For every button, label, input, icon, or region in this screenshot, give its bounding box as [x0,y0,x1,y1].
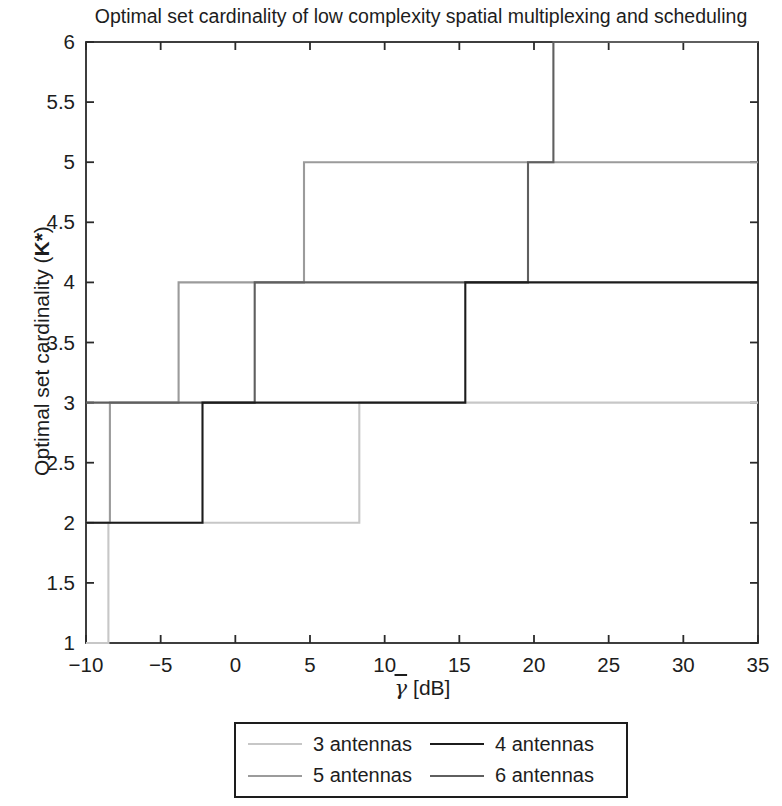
legend-label: 6 antennas [495,764,594,787]
legend-label: 5 antennas [313,764,412,787]
chart-figure: Optimal set cardinality of low complexit… [0,0,782,806]
x-tick-label: −10 [69,653,104,676]
x-tick-label: 10 [373,653,396,676]
x-tick-label: −5 [149,653,172,676]
y-axis-title-symbol: K* [30,233,53,256]
legend-label: 4 antennas [495,733,594,756]
legend-line-sample [248,775,302,777]
legend-item: 6 antennas [430,764,612,787]
axis-box [86,42,758,643]
x-axis-title: γ[dB] [86,676,758,700]
x-tick-label: 20 [523,653,546,676]
x-tick-label: 35 [747,653,770,676]
series-line-5-antennas [86,162,758,523]
y-tick-label: 4 [64,270,75,293]
x-tick-label: 30 [672,653,695,676]
series-line-6-antennas [86,42,758,403]
x-tick-label: 25 [597,653,620,676]
y-tick-label: 3 [64,391,75,414]
x-axis-unit: [dB] [413,676,450,699]
legend-item: 5 antennas [248,764,430,787]
legend-line-sample [430,775,484,777]
y-tick-label: 5 [64,150,75,173]
y-tick-label: 2 [64,511,75,534]
x-tick-label: 15 [448,653,471,676]
plot-area: −10−50510152025303511.522.533.544.555.56 [0,0,782,712]
x-tick-label: 0 [230,653,241,676]
y-axis-title-text: Optimal set cardinality ( [30,256,53,475]
y-tick-label: 1 [64,631,75,654]
x-tick-label: 5 [304,653,315,676]
legend-item: 4 antennas [430,733,612,756]
legend-label: 3 antennas [313,733,412,756]
legend: 3 antennas 4 antennas 5 antennas 6 anten… [234,722,628,798]
legend-item: 3 antennas [248,733,430,756]
legend-line-sample [430,743,484,745]
legend-line-sample [248,743,302,745]
y-tick-label: 6 [64,30,75,53]
y-axis-title-suffix: ) [30,226,53,233]
gamma-bar-symbol: γ [394,676,409,700]
y-axis-title: Optimal set cardinality (K*) [30,70,54,632]
